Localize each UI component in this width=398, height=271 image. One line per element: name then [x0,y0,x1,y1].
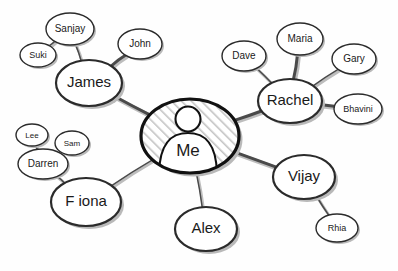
node-bhavini[interactable]: Bhavini [334,94,384,126]
avatar-head [176,107,201,132]
node-label: Darren [28,158,59,169]
node-label: James [67,73,111,90]
edge-me-james [115,97,149,115]
edge-rachel-gary [313,69,338,85]
node-label: Sam [64,139,81,148]
node-label: Alex [191,219,221,236]
node-vijay[interactable]: Vijay [273,155,338,202]
edge-rachel-dave [257,68,272,83]
social-network-graph: JamesRachelF ionaAlexVijaySanjaySukiJohn… [0,0,398,271]
edge-shadow [113,161,154,187]
node-label: Me [176,141,200,160]
node-label: F iona [65,192,107,209]
node-label: Rachel [267,91,314,108]
node-fiona[interactable]: F iona [51,178,124,229]
node-dave[interactable]: Dave [222,41,268,73]
node-label: Bhavini [343,104,373,114]
node-rhia[interactable]: Rhia [316,214,360,244]
node-label: Maria [287,33,312,44]
node-label: Vijay [288,167,321,184]
mind-map-canvas: JamesRachelF ionaAlexVijaySanjaySukiJohn… [0,0,398,271]
node-label: Sanjay [55,23,86,34]
nodes-layer: JamesRachelF ionaAlexVijaySanjaySukiJohn… [16,13,384,254]
node-label: Lee [25,131,39,140]
node-me[interactable]: Me [141,99,243,177]
node-label: Rhia [328,223,347,233]
node-label: Gary [343,53,365,64]
node-lee[interactable]: Lee [16,124,50,148]
node-james[interactable]: James [56,60,125,109]
edge-me-fiona [112,160,153,186]
edge-shadow [314,71,339,87]
node-label: Dave [232,50,256,61]
node-darren[interactable]: Darren [18,149,70,181]
node-label: Suki [29,50,47,60]
node-maria[interactable]: Maria [277,23,325,57]
node-suki[interactable]: Suki [20,43,58,69]
node-label: John [129,38,151,49]
node-alex[interactable]: Alex [175,207,240,254]
edge-me-vijay [234,152,276,167]
node-rachel[interactable]: Rachel [258,79,325,126]
